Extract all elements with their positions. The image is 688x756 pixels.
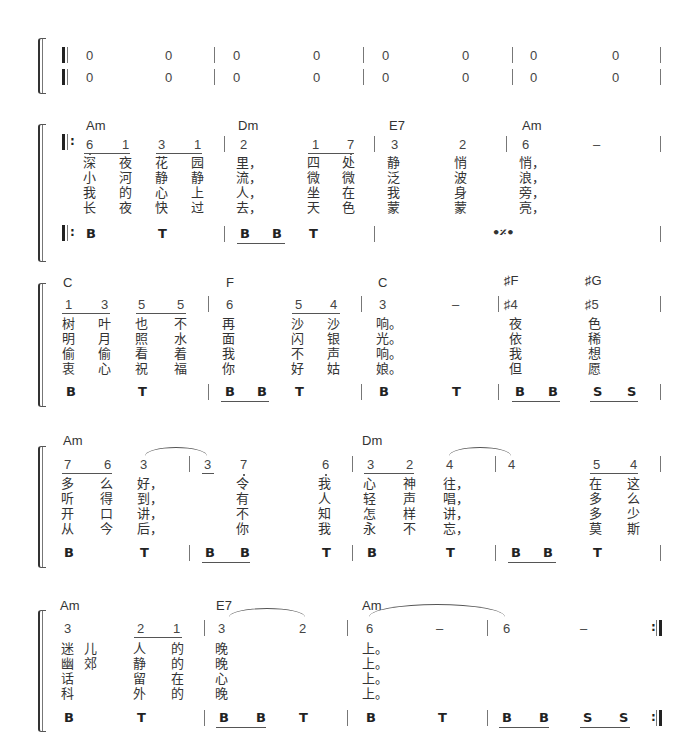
rest-note: 0 [612,70,619,85]
note: 7 [347,137,354,152]
rest-note: 0 [462,48,469,63]
lyric-col: 悄波身蒙 [454,155,467,215]
repeat-end-barline [659,710,662,726]
note: 4 [446,457,453,472]
barline [204,620,205,636]
note: 3 [204,457,211,472]
lyric-col: 花静心快 [155,155,168,215]
note: 6 [322,457,329,472]
barline [67,69,68,85]
note: 3 [101,297,108,312]
chord-symbol: E7 [389,118,405,133]
note: 6 [226,297,233,312]
rest-note: 0 [530,70,537,85]
dash-sustain: – [593,137,600,152]
perc-bass: B [219,710,229,725]
barline [660,456,661,472]
rest-note: 0 [462,70,469,85]
perc-tone: T [309,226,318,241]
barline [660,545,661,561]
system-bracket [38,446,46,568]
note: 2 [299,621,306,636]
note: 2 [240,137,247,152]
lyric-col: 夜河的夜 [119,155,132,215]
perc-bass: B [379,384,389,399]
lyric-col: 静泛我蒙 [387,155,400,215]
barline [660,226,661,242]
perc-bass: B [502,710,512,725]
lyric-col: 沙闪不好 [291,316,304,376]
lyric-col: 往，唱，讲，忘， [443,476,469,536]
note: 4 [630,457,637,472]
barline [361,296,362,312]
repeat-dots: : [70,225,75,239]
barline [204,710,205,726]
perc-tone: T [158,226,167,241]
lyric-col: 树明偷衷 [62,316,75,376]
dash-sustain: – [580,621,587,636]
perc-tone: T [446,545,455,560]
perc-bass: B [205,545,215,560]
barline [208,384,209,400]
lyric-col: 么得口今 [100,476,113,536]
barline [498,384,499,400]
perc-tone: T [137,710,146,725]
note: 3 [367,457,374,472]
dash-sustain: – [436,621,443,636]
lyric-col: 我人知我 [318,476,331,536]
perc-bass: B [367,545,377,560]
rest-note: 0 [313,48,320,63]
lyric-col: 这么少斯 [627,476,640,536]
rest-note: 0 [86,48,93,63]
rest-note: 0 [530,48,537,63]
tie [369,604,505,617]
note: 1 [194,137,201,152]
chord-symbol: Am [63,433,83,448]
perc-tone: T [438,710,447,725]
perc-bass: B [539,710,549,725]
barline [67,47,68,63]
barline [67,134,68,150]
rest-note: 0 [233,70,240,85]
barline [487,710,488,726]
barline [224,136,225,152]
perc-tone: T [295,384,304,399]
perc-tone: T [299,710,308,725]
barline [660,47,661,63]
chord-symbol: Am [86,118,106,133]
barline [374,226,375,242]
note: 2 [406,457,413,472]
perc-tone: T [140,545,149,560]
barline [487,620,488,636]
perc-bass: B [240,545,250,560]
dash-sustain: – [452,297,459,312]
barline [189,456,190,472]
lyric-col: 多听开从 [61,476,74,536]
rest-note: 0 [86,70,93,85]
start-barline [62,69,65,85]
barline [660,296,661,312]
perc-bass: B [86,226,96,241]
lyric-col: 人静留外 [133,641,146,701]
system-bracket [38,124,46,262]
perc-bass: B [257,384,267,399]
perc-bass: B [511,545,521,560]
perc-bass: B [548,384,558,399]
lyric-col: 好，到，讲，后， [137,476,163,536]
perc-slap: S [619,710,628,725]
note: 6 [522,137,529,152]
note: 7 [240,457,247,472]
perc-bass: B [64,545,74,560]
barline [208,296,209,312]
barline [498,296,499,312]
perc-bass: B [543,545,553,560]
barline [374,136,375,152]
note: 2 [459,137,466,152]
lyric-col: 深小我长 [83,155,96,215]
perc-tone: T [322,545,331,560]
system-bracket [38,610,46,732]
note: 1 [312,137,319,152]
rest-note: 0 [165,48,172,63]
lyric-col: 的的在的 [171,641,184,701]
rest-note: 0 [313,70,320,85]
